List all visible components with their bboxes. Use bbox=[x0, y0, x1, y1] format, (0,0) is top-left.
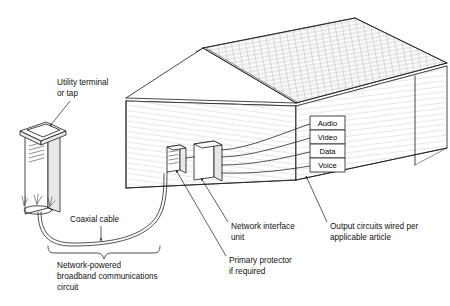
port-label-data: Data bbox=[319, 147, 336, 156]
coaxial-cable-label: Coaxial cable bbox=[70, 215, 120, 224]
output-label-line2: applicable article bbox=[330, 233, 391, 242]
circuit-brace bbox=[48, 246, 160, 259]
annotation-utility-terminal: Utility terminal or tap bbox=[50, 78, 109, 126]
port-label-voice: Voice bbox=[318, 161, 337, 170]
output-port-video: Video bbox=[310, 130, 345, 144]
protector-label-line1: Primary protector bbox=[229, 256, 292, 265]
annotation-coaxial-cable: Coaxial cable bbox=[70, 215, 120, 241]
utility-terminal-leader bbox=[50, 101, 70, 126]
circuit-label-line2: broadband communications bbox=[57, 272, 158, 281]
output-port-audio: Audio bbox=[310, 116, 345, 130]
protector-label-line2: if required bbox=[229, 267, 266, 276]
niu-label-line1: Network interface bbox=[231, 222, 295, 231]
utility-terminal-pedestal bbox=[20, 122, 66, 214]
utility-terminal-label-line2: or tap bbox=[57, 89, 78, 98]
circuit-label-line3: circuit bbox=[57, 283, 79, 292]
annotation-network-interface-unit: Network interface unit bbox=[201, 178, 295, 242]
primary-protector-box bbox=[167, 145, 186, 173]
circuit-label-line1: Network-powered bbox=[57, 261, 122, 270]
broadband-circuit-diagram: Audio Video Data Voice Utility terminal … bbox=[0, 0, 450, 306]
niu-leader bbox=[201, 178, 228, 222]
output-port-data: Data bbox=[310, 144, 345, 158]
annotation-circuit-brace: Network-powered broadband communications… bbox=[48, 246, 160, 292]
utility-terminal-label-line1: Utility terminal bbox=[57, 78, 109, 87]
output-circuits-leader bbox=[306, 176, 327, 222]
niu-side bbox=[214, 141, 222, 181]
network-interface-unit-box bbox=[194, 141, 222, 181]
output-port-voice: Voice bbox=[310, 158, 345, 172]
output-label-line1: Output circuits wired per bbox=[330, 222, 419, 231]
port-label-video: Video bbox=[318, 133, 337, 142]
diagram-canvas: Audio Video Data Voice Utility terminal … bbox=[0, 0, 450, 306]
gable-slope-left bbox=[126, 48, 203, 98]
gable-peak-detail bbox=[196, 48, 203, 52]
port-label-audio: Audio bbox=[318, 119, 337, 128]
protector-side bbox=[180, 145, 186, 173]
output-port-boxes: Audio Video Data Voice bbox=[310, 116, 345, 172]
annotation-output-circuits: Output circuits wired per applicable art… bbox=[306, 176, 419, 242]
niu-label-line2: unit bbox=[231, 233, 245, 242]
